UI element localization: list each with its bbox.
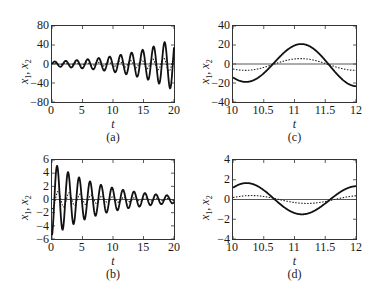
x-tick-label: 5 [67, 104, 97, 116]
x-tick-label: 10 [98, 104, 128, 116]
y-axis-label-part: 1 [205, 75, 214, 79]
plot-lines [52, 160, 174, 239]
y-tick-label: 40 [23, 38, 49, 50]
y-tick-label: −4 [23, 220, 49, 232]
series-x1-solid [233, 44, 356, 86]
x-tick-label: 15 [128, 104, 158, 116]
panel-caption: (a) [98, 130, 128, 145]
plot-lines [52, 26, 174, 102]
x-tick-label: 10.5 [248, 104, 278, 116]
y-axis-label-part: , [17, 204, 31, 210]
plot-area [51, 159, 175, 240]
y-tick-label: 40 [204, 19, 230, 31]
x-tick-label: 12 [341, 241, 371, 253]
panel-caption: (d) [280, 267, 310, 282]
x-tick-label: 11 [279, 241, 309, 253]
x-tick-label: 10 [98, 241, 128, 253]
x-tick-label: 12 [341, 104, 371, 116]
y-tick-label: 2 [204, 173, 230, 185]
y-axis-label-part: x [198, 79, 212, 84]
y-tick-label: 6 [23, 153, 49, 165]
y-axis-label-part: , [198, 204, 212, 210]
y-tick-label: 80 [23, 19, 49, 31]
y-axis-label-part: 2 [24, 59, 33, 63]
x-tick-label: 11.5 [310, 104, 340, 116]
x-tick-label: 10.5 [248, 241, 278, 253]
plot-area [232, 25, 357, 103]
y-axis-label-part: 2 [24, 195, 33, 199]
x-tick-label: 20 [159, 241, 189, 253]
y-tick-label: 4 [23, 166, 49, 178]
y-axis-label-part: , [198, 69, 212, 75]
y-axis-label-part: , [17, 69, 31, 75]
x-tick-label: 10 [217, 241, 247, 253]
y-axis-label-part: 2 [205, 195, 214, 199]
y-axis-label: x1, x2 [17, 59, 33, 84]
plot-area [51, 25, 175, 103]
y-tick-label: 4 [204, 153, 230, 165]
series-x2-dotted [233, 59, 356, 71]
plot-area [232, 159, 357, 240]
panel-caption: (c) [280, 130, 310, 145]
plot-lines [233, 160, 356, 239]
x-tick-label: 20 [159, 104, 189, 116]
y-axis-label-part: x [198, 63, 212, 68]
y-axis-label-part: x [17, 63, 31, 68]
x-tick-label: 11.5 [310, 241, 340, 253]
x-tick-label: 15 [128, 241, 158, 253]
y-axis-label: x1, x2 [198, 195, 214, 220]
y-tick-label: 20 [204, 38, 230, 50]
x-tick-label: 0 [36, 241, 66, 253]
y-axis-label-part: x [17, 199, 31, 204]
x-tick-label: 5 [67, 241, 97, 253]
plot-lines [233, 26, 356, 102]
panel-caption: (b) [98, 267, 128, 282]
x-tick-label: 11 [279, 104, 309, 116]
series-x1-solid [52, 166, 174, 235]
y-axis-label: x1, x2 [198, 59, 214, 84]
y-axis-label-part: x [198, 199, 212, 204]
y-axis-label-part: 1 [24, 75, 33, 79]
y-axis-label-part: 2 [205, 59, 214, 63]
x-tick-label: 10 [217, 104, 247, 116]
y-tick-label: 2 [23, 180, 49, 192]
y-axis-label-part: x [17, 79, 31, 84]
y-axis-label: x1, x2 [17, 195, 33, 220]
x-tick-label: 0 [36, 104, 66, 116]
